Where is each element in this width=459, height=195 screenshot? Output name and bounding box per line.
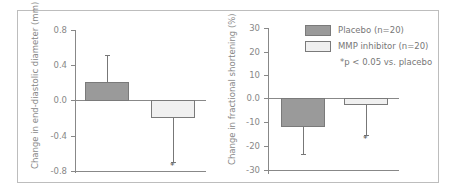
left-tick-label: -0.4	[37, 131, 67, 141]
legend-label-mmp: MMP inhibitor (n=20)	[338, 41, 428, 51]
legend-label-placebo: Placebo (n=20)	[338, 25, 404, 35]
legend-swatch-mmp	[305, 41, 331, 52]
left-tick-label: 0.0	[37, 95, 67, 105]
right-tick	[264, 75, 268, 76]
left-tick	[71, 30, 75, 31]
right-y-axis	[268, 28, 269, 174]
right-tick-label: 0.0	[230, 93, 260, 103]
right-tick	[264, 122, 268, 123]
right-tick-label: -20	[230, 141, 260, 151]
right-mmp-bar	[344, 98, 388, 105]
right-placebo-error-cap	[301, 154, 306, 155]
right-tick-label: 30	[230, 23, 260, 33]
left-tick-label: -0.8	[37, 166, 67, 176]
right-bottom-line	[264, 170, 399, 171]
left-significance-star: *	[170, 161, 175, 171]
left-tick	[71, 65, 75, 66]
right-tick-label: -30	[230, 165, 260, 175]
left-tick-label: 0.4	[37, 60, 67, 70]
right-mmp-error-bar	[366, 105, 367, 135]
right-tick	[264, 52, 268, 53]
right-tick	[264, 28, 268, 29]
legend-note: *p < 0.05 vs. placebo	[340, 57, 432, 67]
left-placebo-error-cap	[105, 55, 110, 56]
right-placebo-error-bar	[303, 127, 304, 154]
right-significance-star: *	[363, 134, 368, 144]
right-tick	[264, 146, 268, 147]
left-mmp-bar	[151, 100, 195, 118]
left-y-axis	[75, 30, 76, 173]
left-tick	[71, 136, 75, 137]
left-bottom-line	[71, 171, 206, 172]
right-tick-label: 20	[230, 47, 260, 57]
left-placebo-error-bar	[107, 55, 108, 82]
legend-swatch-placebo	[305, 25, 331, 36]
left-placebo-bar	[85, 82, 129, 101]
right-placebo-bar	[281, 98, 325, 127]
left-tick-label: 0.8	[37, 25, 67, 35]
right-tick-label: 10	[230, 70, 260, 80]
right-tick-label: -10	[230, 117, 260, 127]
left-mmp-error-bar	[173, 118, 174, 162]
